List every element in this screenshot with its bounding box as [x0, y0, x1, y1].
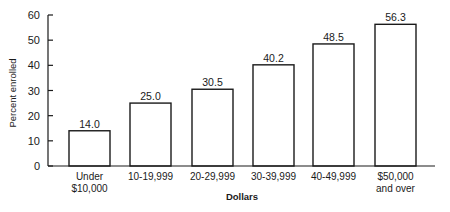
- y-axis: 0102030405060: [28, 9, 53, 172]
- y-tick-label: 10: [28, 135, 40, 147]
- y-tick-label: 50: [28, 34, 40, 46]
- bar: [313, 44, 354, 166]
- y-tick-label: 60: [28, 9, 40, 21]
- x-category-label: and over: [376, 183, 416, 194]
- bar: [69, 131, 110, 166]
- bar-value-label: 48.5: [323, 31, 344, 43]
- y-tick-label: 40: [28, 59, 40, 71]
- bar-value-label: 56.3: [385, 11, 406, 23]
- bar-chart: 0102030405060 14.025.030.540.248.556.3 U…: [0, 0, 450, 212]
- bar-value-label: 14.0: [79, 118, 100, 130]
- x-category-label: 40-49,999: [311, 171, 356, 182]
- bar-value-label: 25.0: [140, 90, 161, 102]
- x-category-label: 20-29,999: [190, 171, 235, 182]
- x-category-label: $50,000: [377, 171, 414, 182]
- x-category-label: $10,000: [71, 183, 108, 194]
- y-tick-label: 0: [34, 160, 40, 172]
- bar-value-label: 40.2: [263, 52, 284, 64]
- y-axis-title: Percent enrolled: [7, 58, 18, 127]
- y-tick-label: 20: [28, 110, 40, 122]
- bar: [253, 65, 294, 166]
- bars: 14.025.030.540.248.556.3: [69, 11, 416, 166]
- bar: [130, 103, 171, 166]
- x-category-label: 30-39,999: [251, 171, 296, 182]
- x-category-label: 10-19,999: [128, 171, 173, 182]
- y-tick-label: 30: [28, 85, 40, 97]
- bar: [375, 24, 416, 166]
- x-axis-title: Dollars: [226, 191, 258, 202]
- x-axis: Under$10,00010-19,99920-29,99930-39,9994…: [48, 166, 435, 194]
- bar-value-label: 30.5: [202, 76, 223, 88]
- bar: [192, 89, 233, 166]
- x-category-label: Under: [76, 171, 104, 182]
